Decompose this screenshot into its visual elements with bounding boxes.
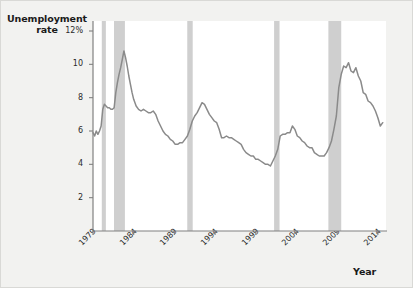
recession-band bbox=[187, 21, 192, 231]
recession-band-group bbox=[102, 21, 341, 231]
chart-figure: Unemployment rate Year 24681012% 1979198… bbox=[0, 0, 413, 288]
recession-band bbox=[274, 21, 279, 231]
recession-band bbox=[102, 21, 106, 231]
chart-svg bbox=[1, 1, 413, 288]
axis-line-group bbox=[93, 21, 387, 231]
